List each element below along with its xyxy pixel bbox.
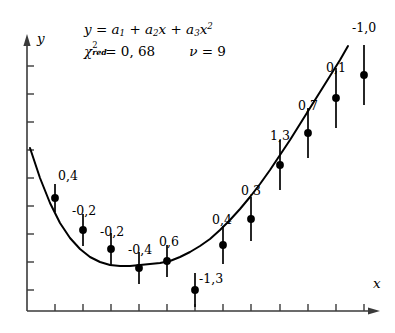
data-point-label: 0,1 [326, 62, 346, 75]
data-point-marker [163, 257, 171, 265]
data-point-marker [360, 71, 368, 79]
equation-lhs: y [84, 21, 92, 37]
y-axis-label: y [37, 32, 45, 46]
nu-symbol: ν [189, 43, 197, 59]
equation-plus2: + [171, 21, 182, 37]
nu-value: 9 [217, 43, 226, 59]
equation-plus1: + [129, 21, 140, 37]
data-point-marker [107, 245, 115, 253]
data-point-label: 0,4 [212, 214, 232, 227]
data-point-marker [135, 264, 143, 272]
data-point-label: -1,0 [352, 22, 376, 35]
data-point-label: 0,3 [241, 185, 261, 198]
data-point-marker [79, 226, 87, 234]
data-point-label: 0,4 [58, 170, 78, 183]
fit-statistics: χ2red= 0, 68ν = 9 [84, 45, 226, 59]
figure-panel: y = a1 + a2x + a3x2 χ2red= 0, 68ν = 9 0,… [0, 0, 395, 333]
chi-value: 0, 68 [121, 43, 155, 59]
data-point-label: 0,7 [298, 100, 318, 113]
data-point-marker [276, 161, 284, 169]
model-equation: y = a1 + a2x + a3x2 [84, 22, 226, 38]
equation-block: y = a1 + a2x + a3x2 χ2red= 0, 68ν = 9 [84, 22, 226, 65]
data-point-marker [51, 194, 59, 202]
data-point-label: 1,3 [270, 130, 290, 143]
equation-term1: a [112, 21, 120, 37]
nu-equals: = [202, 43, 213, 59]
chi-subscript: red [92, 49, 107, 57]
chi-glyph: χ [84, 43, 92, 59]
data-point-marker [247, 215, 255, 223]
equation-term1-sub: 1 [120, 28, 126, 38]
data-point-label: -0,4 [128, 244, 152, 257]
data-point-marker [219, 241, 227, 249]
data-point-marker [191, 286, 199, 294]
data-point-label: -0,2 [100, 226, 124, 239]
equation-term3-pow: 2 [207, 21, 213, 31]
x-axis-label: x [373, 277, 381, 291]
equation-term2: a [145, 21, 153, 37]
chi-squared-symbol: χ2red [84, 45, 92, 59]
equation-term3: a [186, 21, 194, 37]
equation-equals: = [96, 21, 107, 37]
data-point-label: -0,2 [72, 205, 96, 218]
data-point-marker [304, 129, 312, 137]
data-point-label: 0,6 [159, 236, 179, 249]
equation-term2-var: x [159, 21, 167, 37]
data-point-label: -1,3 [199, 273, 223, 286]
data-point-marker [332, 94, 340, 102]
